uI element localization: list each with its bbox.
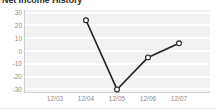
line-chart: 3020100-10-20-30 12/0312/0412/0512/0612/… (0, 6, 217, 109)
x-axis-tick-label: 12/03 (38, 95, 72, 102)
chart-title-clip: Net Income History (0, 0, 217, 5)
bottom-divider (0, 108, 217, 109)
data-point-marker[interactable] (177, 41, 182, 46)
x-axis-tick-label: 12/05 (100, 95, 134, 102)
x-axis-tick-label: 12/04 (69, 95, 103, 102)
data-point-marker[interactable] (84, 18, 89, 23)
x-axis-tick-label: 12/07 (162, 95, 196, 102)
net-income-history-widget: Net Income History 3020100-10-20-30 12/0… (0, 0, 217, 109)
page-title: Net Income History (2, 0, 82, 5)
x-axis-tick-label: 12/06 (131, 95, 165, 102)
series-line (86, 20, 179, 89)
data-point-marker[interactable] (115, 87, 120, 92)
data-point-marker[interactable] (146, 55, 151, 60)
chart-series-layer (0, 6, 217, 109)
